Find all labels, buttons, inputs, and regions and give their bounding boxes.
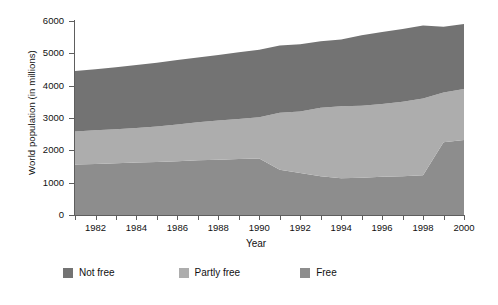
legend-swatch-icon	[63, 268, 73, 278]
y-tick-label: 1000	[24, 178, 64, 188]
x-tick-label: 1984	[116, 222, 156, 233]
y-tick	[69, 86, 75, 87]
y-tick-label: 5000	[24, 48, 64, 58]
y-tick	[69, 183, 75, 184]
legend-label: Not free	[79, 267, 115, 278]
x-tick	[218, 216, 219, 220]
x-tick	[464, 216, 465, 220]
legend-item-not-free[interactable]: Not free	[63, 267, 115, 278]
legend-item-partly-free[interactable]: Partly free	[179, 267, 241, 278]
x-tick-label: 1996	[362, 222, 402, 233]
x-tick-label: 1982	[76, 222, 116, 233]
x-tick-label: 1990	[239, 222, 279, 233]
x-tick	[259, 216, 260, 220]
legend-swatch-icon	[300, 268, 310, 278]
chart-legend: Not freePartly freeFree	[63, 267, 337, 278]
x-tick	[157, 216, 158, 220]
x-tick	[280, 216, 281, 220]
stacked-area-svg	[75, 21, 464, 215]
y-tick	[69, 53, 75, 54]
y-tick-label: 3000	[24, 113, 64, 123]
y-tick-label: 2000	[24, 145, 64, 155]
chart-figure: World population (in millions) 010002000…	[0, 0, 498, 305]
legend-label: Free	[316, 267, 337, 278]
y-tick-label: 4000	[24, 81, 64, 91]
y-tick-label: 6000	[24, 16, 64, 26]
legend-swatch-icon	[179, 268, 189, 278]
y-tick	[69, 118, 75, 119]
x-tick-label: 1986	[157, 222, 197, 233]
x-axis-line	[74, 215, 465, 216]
x-tick-label: 1992	[280, 222, 320, 233]
x-tick-label: 2000	[444, 222, 484, 233]
x-axis-title: Year	[0, 238, 498, 249]
plot-area	[75, 21, 464, 215]
x-tick	[362, 216, 363, 220]
x-tick	[423, 216, 424, 220]
x-tick	[382, 216, 383, 220]
x-tick	[96, 216, 97, 220]
x-tick	[403, 216, 404, 220]
x-tick	[136, 216, 137, 220]
legend-label: Partly free	[195, 267, 241, 278]
x-tick-label: 1994	[321, 222, 361, 233]
x-tick	[321, 216, 322, 220]
x-tick-label: 1998	[403, 222, 443, 233]
x-axis-title-text: Year	[246, 238, 266, 249]
x-tick	[239, 216, 240, 220]
x-tick-label: 1988	[198, 222, 238, 233]
x-tick	[116, 216, 117, 220]
y-tick-label: 0	[24, 210, 64, 220]
y-tick	[69, 150, 75, 151]
x-tick	[444, 216, 445, 220]
x-tick	[177, 216, 178, 220]
x-tick	[198, 216, 199, 220]
x-tick	[300, 216, 301, 220]
y-tick	[69, 21, 75, 22]
legend-item-free[interactable]: Free	[300, 267, 337, 278]
x-tick	[341, 216, 342, 220]
x-tick	[75, 216, 76, 220]
